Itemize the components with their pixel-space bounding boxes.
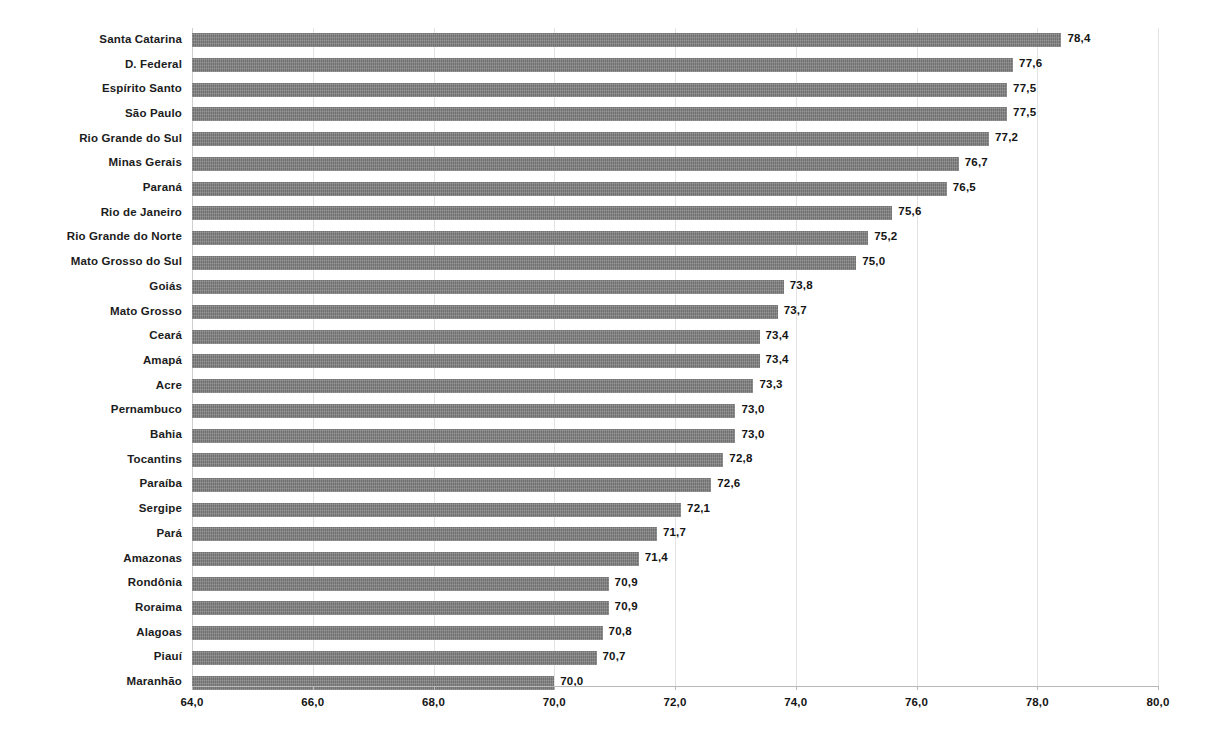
bar-row[interactable]: 72,8 <box>192 448 1158 473</box>
x-tick-label: 74,0 <box>784 696 807 708</box>
category-label: D. Federal <box>0 58 182 70</box>
bar-value-label: 78,4 <box>1067 32 1090 44</box>
bar-row[interactable]: 73,3 <box>192 374 1158 399</box>
x-tick-label: 76,0 <box>905 696 928 708</box>
bar[interactable] <box>192 527 657 541</box>
category-label: Rio Grande do Sul <box>0 132 182 144</box>
bar[interactable] <box>192 305 778 319</box>
bar[interactable] <box>192 280 784 294</box>
bar[interactable] <box>192 330 760 344</box>
bar[interactable] <box>192 33 1061 47</box>
bar-value-label: 75,6 <box>898 205 921 217</box>
bar-row[interactable]: 72,6 <box>192 473 1158 498</box>
bar-value-label: 77,5 <box>1013 82 1036 94</box>
x-tick-mark <box>434 686 435 690</box>
bar[interactable] <box>192 379 753 393</box>
bar-row[interactable]: 73,0 <box>192 399 1158 424</box>
x-tick-mark <box>192 686 193 690</box>
bar[interactable] <box>192 354 760 368</box>
bar-row[interactable]: 75,6 <box>192 201 1158 226</box>
x-tick-mark <box>796 686 797 690</box>
bar-row[interactable]: 75,0 <box>192 250 1158 275</box>
bar-row[interactable]: 71,7 <box>192 522 1158 547</box>
bar[interactable] <box>192 651 597 665</box>
bar-value-label: 76,7 <box>965 156 988 168</box>
bar[interactable] <box>192 478 711 492</box>
bar[interactable] <box>192 157 959 171</box>
bar-row[interactable]: 70,9 <box>192 571 1158 596</box>
category-label: Ceará <box>0 329 182 341</box>
bar-row[interactable]: 73,0 <box>192 423 1158 448</box>
bar-value-label: 76,5 <box>953 181 976 193</box>
x-tick-label: 64,0 <box>180 696 203 708</box>
x-tick-label: 66,0 <box>301 696 324 708</box>
bar-row[interactable]: 70,9 <box>192 596 1158 621</box>
category-label: Tocantins <box>0 453 182 465</box>
bar-value-label: 77,6 <box>1019 57 1042 69</box>
bar[interactable] <box>192 601 609 615</box>
bar[interactable] <box>192 256 856 270</box>
bar[interactable] <box>192 107 1007 121</box>
bar-row[interactable]: 75,2 <box>192 226 1158 251</box>
bar[interactable] <box>192 552 639 566</box>
category-label: Rio Grande do Norte <box>0 230 182 242</box>
bar-value-label: 77,2 <box>995 131 1018 143</box>
bar-row[interactable]: 71,4 <box>192 547 1158 572</box>
bar-row[interactable]: 77,6 <box>192 53 1158 78</box>
x-tick-mark <box>917 686 918 690</box>
bar-row[interactable]: 70,8 <box>192 621 1158 646</box>
bar-row[interactable]: 73,4 <box>192 324 1158 349</box>
bar-value-label: 75,2 <box>874 230 897 242</box>
gridline <box>1158 28 1159 686</box>
bar-row[interactable]: 77,5 <box>192 102 1158 127</box>
bar[interactable] <box>192 453 723 467</box>
bar-row[interactable]: 76,7 <box>192 152 1158 177</box>
category-label: Maranhão <box>0 675 182 687</box>
x-tick-mark <box>554 686 555 690</box>
bar-row[interactable]: 72,1 <box>192 497 1158 522</box>
bar-value-label: 70,7 <box>603 650 626 662</box>
bar-row[interactable]: 73,4 <box>192 349 1158 374</box>
x-tick-label: 78,0 <box>1026 696 1049 708</box>
bar[interactable] <box>192 132 989 146</box>
category-label: Pará <box>0 527 182 539</box>
category-label: Mato Grosso do Sul <box>0 255 182 267</box>
category-label: Espírito Santo <box>0 82 182 94</box>
bar[interactable] <box>192 404 735 418</box>
bar[interactable] <box>192 577 609 591</box>
bar-row[interactable]: 77,5 <box>192 77 1158 102</box>
x-tick-mark <box>1037 686 1038 690</box>
bar[interactable] <box>192 429 735 443</box>
category-label: Paraíba <box>0 477 182 489</box>
bar[interactable] <box>192 83 1007 97</box>
bar[interactable] <box>192 626 603 640</box>
bar-value-label: 73,4 <box>766 329 789 341</box>
bar-value-label: 73,3 <box>759 378 782 390</box>
category-label: Paraná <box>0 181 182 193</box>
bar-value-label: 72,1 <box>687 502 710 514</box>
category-label: Mato Grosso <box>0 305 182 317</box>
x-tick-mark <box>675 686 676 690</box>
bar-row[interactable]: 70,7 <box>192 646 1158 671</box>
category-label: Bahia <box>0 428 182 440</box>
category-label: Goiás <box>0 280 182 292</box>
bar-row[interactable]: 73,7 <box>192 300 1158 325</box>
x-tick-label: 68,0 <box>422 696 445 708</box>
bar-row[interactable]: 76,5 <box>192 176 1158 201</box>
category-label: Sergipe <box>0 502 182 514</box>
bar-value-label: 71,4 <box>645 551 668 563</box>
bar-row[interactable]: 78,4 <box>192 28 1158 53</box>
bar[interactable] <box>192 206 892 220</box>
bar[interactable] <box>192 182 947 196</box>
bar-row[interactable]: 77,2 <box>192 127 1158 152</box>
bar-value-label: 70,9 <box>615 600 638 612</box>
bar[interactable] <box>192 676 554 690</box>
bar-row[interactable]: 70,0 <box>192 670 1158 695</box>
bar[interactable] <box>192 231 868 245</box>
bar-value-label: 77,5 <box>1013 106 1036 118</box>
bar[interactable] <box>192 58 1013 72</box>
bar-row[interactable]: 73,8 <box>192 275 1158 300</box>
category-label: Minas Gerais <box>0 156 182 168</box>
bar-chart: 78,477,677,577,577,276,776,575,675,275,0… <box>0 0 1208 750</box>
bar[interactable] <box>192 503 681 517</box>
